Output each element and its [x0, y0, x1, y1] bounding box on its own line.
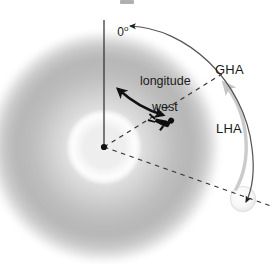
diagram-canvas: 0o longitude west GHA LHA	[0, 0, 276, 264]
lha-arc-arrow	[224, 83, 246, 189]
earth-center-dot	[101, 144, 107, 150]
label-gha: GHA	[215, 63, 244, 77]
label-prime-meridian: 0o	[104, 13, 128, 51]
celestial-body-sun	[229, 185, 258, 214]
cropped-caption-remnant	[120, 0, 134, 4]
label-lha: LHA	[216, 122, 242, 136]
label-longitude-west: longitude west	[126, 62, 190, 128]
